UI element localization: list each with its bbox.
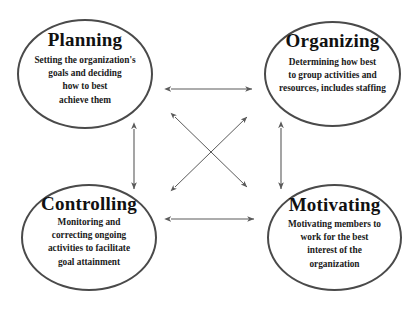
node-motivating-description: Motivating members to work for the best … <box>288 218 381 271</box>
management-functions-diagram: Planning Setting the organization's goal… <box>0 0 419 310</box>
node-organizing[interactable]: Organizing Determining how best to group… <box>264 21 401 127</box>
node-controlling-title: Controlling <box>41 194 137 214</box>
node-controlling-description: Monitoring and correcting ongoing activi… <box>48 216 130 269</box>
connector-controlling-organizing <box>175 117 247 187</box>
node-organizing-title: Organizing <box>286 31 380 51</box>
node-planning-title: Planning <box>48 30 122 50</box>
node-motivating[interactable]: Motivating Motivating members to work fo… <box>267 184 402 291</box>
node-planning[interactable]: Planning Setting the organization's goal… <box>17 19 153 129</box>
node-motivating-title: Motivating <box>289 195 381 215</box>
node-planning-description: Setting the organization's goals and dec… <box>34 54 135 107</box>
node-organizing-description: Determining how best to group activities… <box>279 56 386 96</box>
connector-planning-motivating <box>175 117 247 187</box>
node-controlling[interactable]: Controlling Monitoring and correcting on… <box>21 184 157 291</box>
